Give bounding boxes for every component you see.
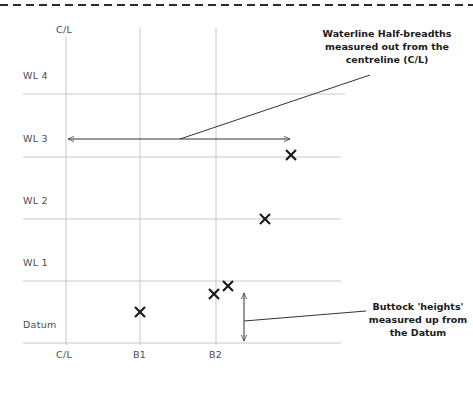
half-breadth-note-line-1: Waterline Half-breadths	[312, 27, 462, 40]
half-breadth-leader-line	[180, 75, 370, 139]
buttock-height-note-line-1: Buttock 'heights'	[368, 300, 468, 313]
axis-label-b2: B2	[209, 349, 222, 360]
diagram-canvas: WL 4 WL 3 WL 2 WL 1 Datum C/L C/L B1 B2 …	[0, 0, 473, 413]
axis-label-wl3: WL 3	[23, 133, 48, 144]
buttock-height-note-line-2: measured up from	[368, 313, 468, 326]
axis-label-wl4: WL 4	[23, 70, 48, 81]
axis-label-wl2: WL 2	[23, 195, 48, 206]
buttock-height-note: Buttock 'heights' measured up from the D…	[368, 300, 468, 339]
buttock-gridlines	[66, 28, 216, 345]
axis-label-datum: Datum	[23, 319, 57, 330]
offset-point-wl1-outer	[223, 281, 233, 291]
axis-label-cl-bottom: C/L	[56, 349, 72, 360]
buttock-height-leader-line	[244, 311, 366, 321]
axis-label-b1: B1	[133, 349, 146, 360]
half-breadth-note-line-2: measured out from the	[312, 40, 462, 53]
offset-point-wl1-inner	[209, 289, 219, 299]
axis-label-cl-top: C/L	[56, 24, 72, 35]
offset-point-wl3	[286, 150, 296, 160]
axis-label-wl1: WL 1	[23, 257, 48, 268]
half-breadth-note: Waterline Half-breadths measured out fro…	[312, 27, 462, 66]
buttock-height-note-line-3: the Datum	[368, 326, 468, 339]
waterline-gridlines	[23, 94, 345, 343]
half-breadth-note-line-3: centreline (C/L)	[312, 53, 462, 66]
